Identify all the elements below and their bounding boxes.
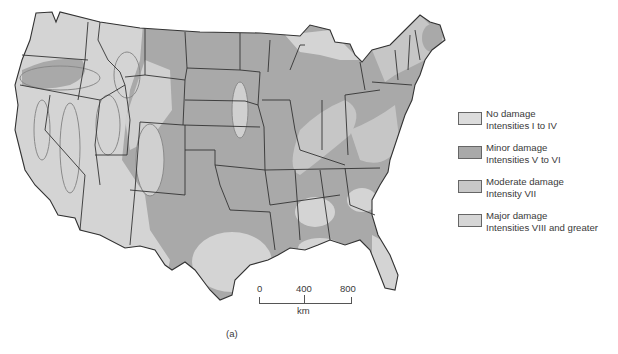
legend-label: Moderate damage (486, 176, 564, 188)
legend-label: Major damage (486, 210, 598, 222)
legend-sublabel: Intensities V to VI (486, 154, 561, 166)
legend-swatch (458, 180, 482, 193)
scale-tick-800: 800 (340, 283, 356, 294)
scale-unit: km (297, 305, 310, 316)
legend-swatch (458, 112, 482, 125)
legend-item-major-damage: Major damage Intensities VIII and greate… (457, 209, 618, 243)
legend-item-no-damage: No damage Intensities I to IV (457, 107, 618, 141)
legend-sublabel: Intensities VIII and greater (486, 222, 598, 234)
legend-sublabel: Intensity VII (486, 188, 564, 200)
legend-item-minor-damage: Minor damage Intensities V to VI (457, 141, 618, 175)
legend-item-moderate-damage: Moderate damage Intensity VII (457, 175, 618, 209)
scale-line (259, 297, 352, 304)
scale-bar: 0 400 800 km (252, 283, 362, 323)
scale-tick-0: 0 (257, 283, 262, 294)
figure-caption: (a) (226, 328, 238, 339)
legend-label: No damage (486, 108, 557, 120)
legend-sublabel: Intensities I to IV (486, 120, 557, 132)
scale-mid-tick (304, 295, 305, 303)
scale-tick-400: 400 (296, 283, 312, 294)
legend-swatch (458, 214, 482, 227)
legend-label: Minor damage (486, 142, 561, 154)
legend: No damage Intensities I to IV Minor dama… (457, 107, 618, 243)
legend-swatch (458, 146, 482, 159)
